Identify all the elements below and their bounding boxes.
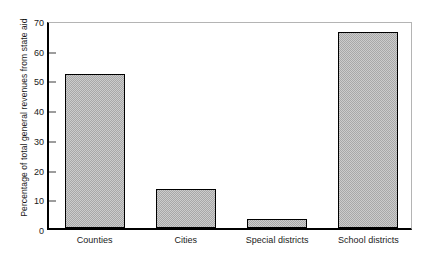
x-axis-tick-label: Special districts	[246, 235, 309, 245]
bar-special-districts	[247, 219, 307, 228]
x-axis-tick-label: Counties	[77, 235, 113, 245]
x-axis-tick-label: Cities	[175, 235, 198, 245]
bar-counties	[65, 74, 125, 229]
y-axis-tick-label: 10	[34, 196, 44, 206]
y-axis-tick-mark	[49, 141, 56, 142]
y-axis-tick-label: 40	[34, 107, 44, 117]
y-axis-tick-label: 30	[34, 137, 44, 147]
y-axis-title: Percentage of total general revenues fro…	[16, 0, 32, 247]
y-axis-tick-mark	[49, 171, 56, 172]
y-axis-tick-mark	[49, 112, 56, 113]
x-axis-tick-label: School districts	[338, 235, 399, 245]
y-axis-tick-mark	[49, 82, 56, 83]
y-axis-tick-label: 70	[34, 18, 44, 28]
bar-cities	[156, 189, 216, 228]
y-axis-tick-label: 50	[34, 77, 44, 87]
y-axis-tick-label: 60	[34, 48, 44, 58]
bar-school-districts	[338, 32, 398, 228]
y-axis-tick-mark	[49, 52, 56, 53]
bar-chart-figure: Percentage of total general revenues fro…	[0, 0, 425, 259]
y-axis-tick-label: 0	[39, 226, 44, 236]
plot-area: 010203040506070CountiesCitiesSpecial dis…	[47, 22, 412, 230]
y-axis-tick-mark	[49, 201, 56, 202]
y-axis-tick-label: 20	[34, 167, 44, 177]
